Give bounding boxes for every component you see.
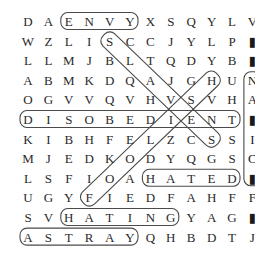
- grid-letter[interactable]: E: [126, 132, 134, 147]
- grid-letter[interactable]: A: [44, 14, 54, 29]
- grid-letter[interactable]: F: [167, 190, 174, 205]
- grid-letter[interactable]: A: [125, 171, 135, 186]
- grid-letter[interactable]: S: [208, 132, 215, 147]
- grid-letter[interactable]: L: [65, 34, 73, 49]
- grid-letter[interactable]: O: [85, 112, 94, 127]
- grid-letter[interactable]: P: [228, 34, 235, 49]
- grid-letter[interactable]: V: [44, 210, 54, 225]
- grid-letter[interactable]: H: [227, 92, 236, 107]
- grid-letter[interactable]: O: [125, 151, 134, 166]
- grid-letter[interactable]: A: [248, 92, 255, 107]
- grid-letter[interactable]: E: [126, 190, 134, 205]
- grid-letter[interactable]: H: [146, 92, 155, 107]
- grid-letter[interactable]: T: [106, 210, 114, 225]
- grid-letter[interactable]: Y: [207, 53, 217, 68]
- grid-letter[interactable]: H: [207, 73, 216, 88]
- grid-letter[interactable]: S: [228, 132, 235, 147]
- grid-letter[interactable]: G: [166, 210, 175, 225]
- grid-letter[interactable]: D: [187, 53, 196, 68]
- grid-letter[interactable]: H: [85, 132, 94, 147]
- grid-letter[interactable]: E: [187, 112, 195, 127]
- grid-letter[interactable]: L: [146, 132, 154, 147]
- grid-letter[interactable]: I: [87, 171, 91, 186]
- grid-letter[interactable]: N: [248, 73, 255, 88]
- grid-letter[interactable]: M: [63, 73, 75, 88]
- grid-letter[interactable]: K: [23, 132, 33, 147]
- grid-letter[interactable]: M: [22, 151, 34, 166]
- grid-letter[interactable]: ▮: [249, 53, 255, 68]
- grid-letter[interactable]: R: [85, 230, 94, 245]
- grid-letter[interactable]: S: [188, 92, 195, 107]
- grid-letter[interactable]: L: [24, 53, 32, 68]
- grid-letter[interactable]: Y: [207, 14, 217, 29]
- grid-letter[interactable]: H: [64, 210, 73, 225]
- grid-letter[interactable]: B: [187, 230, 196, 245]
- grid-letter[interactable]: Z: [167, 132, 175, 147]
- grid-letter[interactable]: V: [105, 14, 115, 29]
- grid-letter[interactable]: V: [166, 92, 176, 107]
- grid-letter[interactable]: G: [44, 92, 53, 107]
- grid-letter[interactable]: O: [105, 171, 114, 186]
- grid-letter[interactable]: Y: [166, 151, 176, 166]
- grid-letter[interactable]: T: [187, 171, 195, 186]
- grid-letter[interactable]: ▮: [249, 171, 255, 186]
- grid-letter[interactable]: I: [46, 132, 50, 147]
- grid-letter[interactable]: T: [228, 230, 236, 245]
- grid-letter[interactable]: B: [105, 53, 114, 68]
- grid-letter[interactable]: B: [64, 132, 73, 147]
- grid-letter[interactable]: C: [187, 132, 196, 147]
- grid-letter[interactable]: T: [146, 53, 154, 68]
- grid-letter[interactable]: X: [146, 14, 156, 29]
- grid-letter[interactable]: S: [65, 112, 72, 127]
- grid-letter[interactable]: T: [228, 112, 236, 127]
- grid-letter[interactable]: N: [146, 210, 156, 225]
- grid-letter[interactable]: Z: [44, 34, 52, 49]
- grid-letter[interactable]: G: [44, 190, 53, 205]
- grid-letter[interactable]: ▮: [249, 210, 255, 225]
- grid-letter[interactable]: I: [128, 210, 132, 225]
- grid-letter[interactable]: S: [45, 171, 52, 186]
- grid-letter[interactable]: Q: [187, 14, 197, 29]
- grid-letter[interactable]: D: [227, 171, 236, 186]
- grid-letter[interactable]: S: [45, 230, 52, 245]
- grid-letter[interactable]: G: [227, 210, 236, 225]
- grid-letter[interactable]: I: [169, 112, 173, 127]
- grid-letter[interactable]: U: [23, 190, 33, 205]
- grid-letter[interactable]: D: [207, 230, 216, 245]
- grid-letter[interactable]: I: [87, 34, 91, 49]
- grid-letter[interactable]: F: [86, 190, 93, 205]
- grid-letter[interactable]: A: [166, 171, 176, 186]
- grid-letter[interactable]: V: [248, 14, 255, 29]
- grid-letter[interactable]: H: [146, 171, 155, 186]
- grid-letter[interactable]: ▮: [249, 34, 255, 49]
- grid-letter[interactable]: Y: [125, 230, 135, 245]
- grid-letter[interactable]: Q: [146, 230, 156, 245]
- grid-letter[interactable]: L: [44, 53, 52, 68]
- grid-letter[interactable]: D: [146, 112, 155, 127]
- grid-letter[interactable]: J: [87, 53, 92, 68]
- grid-letter[interactable]: U: [227, 73, 237, 88]
- grid-letter[interactable]: F: [228, 190, 235, 205]
- grid-letter[interactable]: K: [85, 73, 95, 88]
- grid-letter[interactable]: F: [249, 190, 255, 205]
- grid-letter[interactable]: J: [46, 151, 51, 166]
- grid-letter[interactable]: F: [65, 171, 72, 186]
- grid-letter[interactable]: N: [85, 14, 95, 29]
- grid-letter[interactable]: D: [146, 190, 155, 205]
- grid-letter[interactable]: Y: [64, 190, 74, 205]
- grid-letter[interactable]: S: [167, 14, 174, 29]
- grid-letter[interactable]: L: [126, 53, 134, 68]
- grid-letter[interactable]: K: [105, 151, 115, 166]
- grid-letter[interactable]: ▮: [249, 112, 255, 127]
- grid-letter[interactable]: C: [126, 34, 135, 49]
- grid-letter[interactable]: E: [65, 151, 73, 166]
- grid-letter[interactable]: T: [65, 230, 73, 245]
- grid-letter[interactable]: V: [125, 92, 135, 107]
- grid-letter[interactable]: B: [44, 73, 53, 88]
- grid-letter[interactable]: C: [248, 151, 255, 166]
- grid-letter[interactable]: L: [228, 14, 236, 29]
- grid-letter[interactable]: I: [250, 132, 254, 147]
- grid-letter[interactable]: S: [106, 34, 113, 49]
- grid-letter[interactable]: E: [126, 112, 134, 127]
- grid-letter[interactable]: Q: [105, 92, 115, 107]
